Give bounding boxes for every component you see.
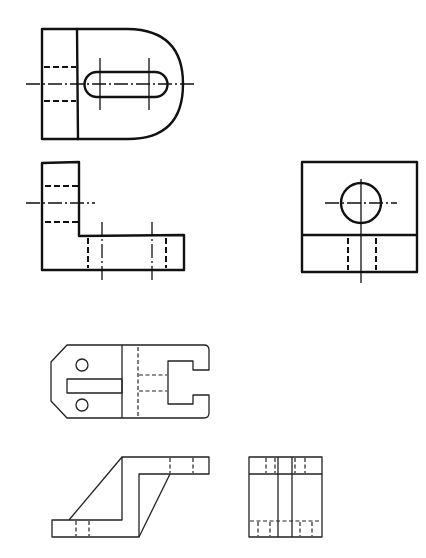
part-a-top-view (26, 29, 196, 139)
part-b-small-hole (76, 399, 88, 411)
drawing-canvas (0, 0, 426, 558)
part-b-diagonal-left (69, 457, 122, 520)
part-a-side-outline (302, 162, 417, 272)
part-a-front-view (26, 162, 184, 282)
part-b-small-hole (76, 359, 88, 371)
part-b-side-outline (249, 457, 322, 537)
part-b-top-outline (51, 345, 209, 418)
part-b-diagonal-right (139, 474, 170, 537)
part-b-side-view (249, 457, 322, 537)
part-a-side-view (302, 162, 417, 283)
part-a-front-outline (42, 162, 184, 270)
part-b-top-view (51, 345, 209, 418)
part-b-slot (67, 379, 122, 393)
part-b-front-view (52, 457, 209, 537)
